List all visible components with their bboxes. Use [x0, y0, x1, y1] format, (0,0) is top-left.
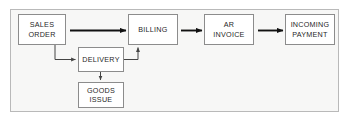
- node-goods-issue-label: GOODS ISSUE: [87, 86, 115, 104]
- node-delivery-label: DELIVERY: [82, 55, 119, 64]
- node-incoming-payment-label: INCOMING PAYMENT: [291, 20, 330, 38]
- node-sales-order: SALES ORDER: [18, 14, 66, 45]
- node-billing-label: BILLING: [138, 25, 167, 34]
- node-incoming-payment: INCOMING PAYMENT: [285, 14, 335, 45]
- node-sales-order-label: SALES ORDER: [28, 20, 55, 38]
- node-delivery: DELIVERY: [78, 47, 124, 72]
- edge-sales-order-to-delivery: [55, 45, 76, 60]
- node-goods-issue: GOODS ISSUE: [78, 82, 124, 108]
- node-ar-invoice-label: AR INVOICE: [213, 20, 244, 38]
- diagram-canvas: SALES ORDER BILLING AR INVOICE INCOMING …: [0, 0, 348, 120]
- edge-delivery-to-billing: [124, 48, 138, 60]
- node-billing: BILLING: [128, 14, 178, 45]
- node-ar-invoice: AR INVOICE: [204, 14, 254, 45]
